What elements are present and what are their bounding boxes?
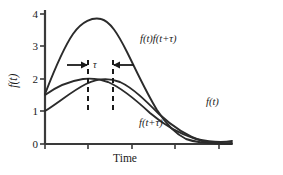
y-tick-label-4: 4	[24, 9, 38, 20]
x-axis-title: Time	[0, 153, 250, 165]
y-tick-label-2: 2	[24, 74, 38, 85]
curve-ft	[45, 79, 232, 142]
tau-symbol-label: τ	[93, 60, 97, 70]
curve-label-ft: f(t)	[206, 97, 219, 108]
y-axis-title: f(t)	[8, 61, 20, 101]
curve-ft-tau	[45, 79, 232, 144]
tau-arrow-left-icon	[67, 62, 88, 69]
curve-label-ft-tau: f(t+τ)	[139, 118, 163, 129]
y-tick-label-0: 0	[24, 139, 38, 150]
autocorrelation-figure: 4 3 2 1 0 f(t) Time f(t)f(t+τ) f(t) f(t+…	[0, 0, 283, 175]
curve-label-product: f(t)f(t+τ)	[140, 34, 177, 45]
y-tick-label-3: 3	[24, 41, 38, 52]
plot-area	[0, 0, 283, 175]
tau-arrow-right-icon	[113, 62, 134, 69]
y-tick-label-1: 1	[24, 106, 38, 117]
